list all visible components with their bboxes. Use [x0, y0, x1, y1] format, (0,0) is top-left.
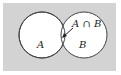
intersection-label: A ∩ B [71, 18, 101, 29]
set-b-label: B [78, 39, 86, 50]
set-a-label: A [36, 39, 44, 50]
venn-diagram: A B A ∩ B [0, 0, 121, 75]
